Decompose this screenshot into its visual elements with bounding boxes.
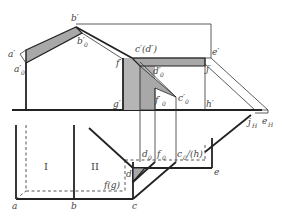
svg-text:0: 0 — [84, 41, 88, 48]
label-b-prime: b′ — [71, 13, 79, 23]
svg-text:0: 0 — [162, 100, 166, 107]
label-h-prime: h′ — [206, 99, 214, 109]
label-e: e — [214, 167, 219, 177]
svg-text:0: 0 — [148, 154, 152, 161]
elevation-view: a′ a′ 0 b′ b′ 0 c′(d′) e′ f′ d′ 0 j′ f′ … — [8, 13, 274, 129]
label-eH: e — [262, 116, 267, 126]
svg-text:H: H — [267, 121, 274, 128]
label-j-prime: j′ — [204, 64, 211, 74]
svg-text:H: H — [251, 122, 258, 129]
plan-ray-jH — [205, 115, 251, 152]
svg-text:0: 0 — [185, 98, 189, 105]
label-f-g: f(g) — [103, 180, 121, 190]
svg-text:0: 0 — [162, 154, 166, 161]
region-II: II — [91, 161, 99, 172]
plan-view: I II a b c d f(g) e d 0 f 0 c 0 /(h) — [12, 115, 251, 211]
label-c: c — [132, 201, 137, 211]
svg-text:0: 0 — [160, 71, 164, 78]
projection-diagram: a′ a′ 0 b′ b′ 0 c′(d′) e′ f′ d′ 0 j′ f′ … — [0, 0, 282, 220]
region-I: I — [44, 161, 48, 172]
light-ray-e — [211, 58, 268, 110]
label-e-prime: e′ — [212, 47, 219, 57]
label-f0-prime: f′ — [154, 95, 160, 105]
label-a: a — [12, 201, 17, 211]
label-b: b — [71, 201, 77, 211]
label-g-prime: g′ — [113, 99, 121, 109]
svg-text:0: 0 — [21, 69, 25, 76]
label-c-prime-d-prime: c′(d′) — [135, 44, 157, 54]
roof-left-shadow — [26, 27, 82, 63]
label-h: /(h) — [186, 149, 203, 159]
label-a-prime: a′ — [8, 49, 15, 59]
label-f-prime: f′ — [115, 58, 121, 68]
label-d: d — [126, 169, 132, 179]
eave-triangle — [20, 50, 26, 63]
label-c0: c — [177, 149, 182, 159]
